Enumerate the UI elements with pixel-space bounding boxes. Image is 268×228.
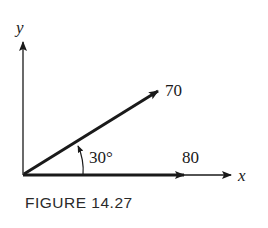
vector-70-label: 70 <box>165 81 182 100</box>
x-axis-label: x <box>237 166 246 185</box>
angle-arc-icon <box>78 146 83 175</box>
vector-80-label: 80 <box>182 148 199 167</box>
figure-caption: FIGURE 14.27 <box>25 194 133 212</box>
angle-label: 30° <box>89 148 113 167</box>
y-axis-label: y <box>14 18 24 37</box>
